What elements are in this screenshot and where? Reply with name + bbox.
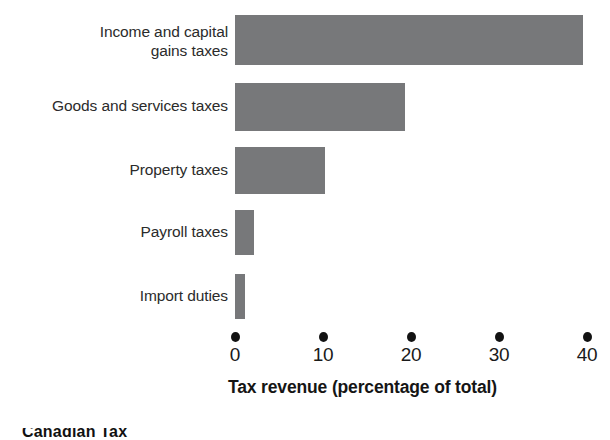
category-label-line-2: gains taxes <box>151 42 228 59</box>
axis-tick-dot-0 <box>231 332 240 342</box>
bar-payroll-taxes <box>235 210 254 255</box>
axis-tick-label-10: 10 <box>293 344 353 366</box>
axis-tick-label-20: 20 <box>381 344 441 366</box>
axis-tick-label-0: 0 <box>205 344 265 366</box>
figure-caption-text: Canadian Tax <box>22 428 127 440</box>
bar-import-duties <box>235 274 245 319</box>
axis-tick-label-30: 30 <box>469 344 529 366</box>
category-label-import-duties: Import duties <box>0 286 228 305</box>
bar-goods-and-services-taxes <box>235 83 405 131</box>
axis-tick-dot-10 <box>319 332 328 342</box>
axis-tick-label-40: 40 <box>557 344 610 366</box>
x-axis-title: Tax revenue (percentage of total) <box>228 377 497 398</box>
axis-tick-dot-30 <box>495 332 504 342</box>
category-label-property-taxes: Property taxes <box>0 160 228 179</box>
bar-property-taxes <box>235 147 325 194</box>
bar-income-and-capital-gains-taxes <box>235 15 583 65</box>
axis-tick-dot-40 <box>583 332 592 342</box>
axis-tick-dot-20 <box>407 332 416 342</box>
category-label-payroll-taxes: Payroll taxes <box>0 222 228 241</box>
category-label-line-1: Income and capital <box>100 23 228 40</box>
category-label-income-and-capital-gains-taxes: Income and capitalgains taxes <box>0 22 228 60</box>
horizontal-bar-chart: Income and capitalgains taxes Goods and … <box>0 0 610 440</box>
category-label-goods-and-services-taxes: Goods and services taxes <box>0 96 228 115</box>
figure-caption-clipped: Canadian Tax <box>22 428 322 440</box>
